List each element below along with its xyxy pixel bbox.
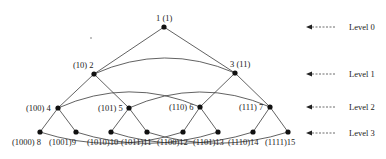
node-label-11: (1011)11 (121, 137, 152, 147)
node-11 (144, 129, 149, 134)
node-12 (180, 129, 185, 134)
stray-dot (90, 37, 91, 38)
arrow-left-icon (306, 131, 312, 136)
node-9 (73, 129, 78, 134)
node-2 (91, 71, 96, 76)
nodes (37, 24, 290, 134)
level-label-3: Level 3 (349, 128, 375, 138)
node-label-1: 1 (1) (156, 13, 172, 23)
node-13 (215, 129, 220, 134)
node-label-8: (1000) 8 (12, 137, 41, 147)
node-label-7: (111) 7 (239, 102, 263, 112)
node-15 (285, 129, 290, 134)
node-label-9: (1001)9 (49, 137, 76, 147)
tree-diagram: 1 (1)(10) 23 (11)(100) 4(101) 5(110) 6(1… (0, 0, 386, 159)
tree-edge-7-15 (270, 107, 288, 132)
level-indicators: Level 0Level 1Level 2Level 3 (306, 22, 375, 138)
node-14 (250, 129, 255, 134)
node-label-5: (101) 5 (98, 103, 123, 113)
tree-edge-1-3 (164, 27, 235, 73)
arrow-left-icon (306, 25, 312, 30)
level-label-2: Level 2 (349, 102, 375, 112)
tree-edge-6-13 (200, 107, 218, 132)
node-1 (161, 24, 166, 29)
level-label-0: Level 0 (349, 22, 375, 32)
tree-edge-1-2 (94, 27, 164, 74)
node-6 (197, 104, 202, 109)
node-label-12: (1100)12 (157, 137, 188, 147)
arrow-left-icon (306, 72, 312, 77)
tree-edge-3-6 (200, 73, 235, 107)
cross-link-2-3 (94, 58, 235, 74)
node-label-10: (1010)10 (87, 137, 118, 147)
tree-edge-2-4 (58, 74, 94, 108)
tree-edge-4-9 (58, 108, 76, 132)
node-label-3: 3 (11) (230, 59, 250, 69)
node-label-14: (1110)14 (228, 137, 259, 147)
node-7 (267, 104, 272, 109)
level-label-1: Level 1 (349, 69, 375, 79)
node-4 (55, 105, 60, 110)
node-3 (232, 70, 237, 75)
tree-edge-5-11 (129, 108, 147, 132)
node-10 (108, 129, 113, 134)
node-5 (126, 105, 131, 110)
node-label-15: (1111)15 (265, 137, 295, 147)
node-label-13: (1101)13 (193, 137, 224, 147)
node-8 (37, 129, 42, 134)
node-label-4: (100) 4 (26, 103, 52, 113)
node-label-6: (110) 6 (169, 102, 193, 112)
tree-edges (40, 27, 288, 132)
node-labels: 1 (1)(10) 23 (11)(100) 4(101) 5(110) 6(1… (12, 13, 295, 147)
node-label-2: (10) 2 (73, 60, 94, 70)
arrow-left-icon (306, 105, 312, 110)
